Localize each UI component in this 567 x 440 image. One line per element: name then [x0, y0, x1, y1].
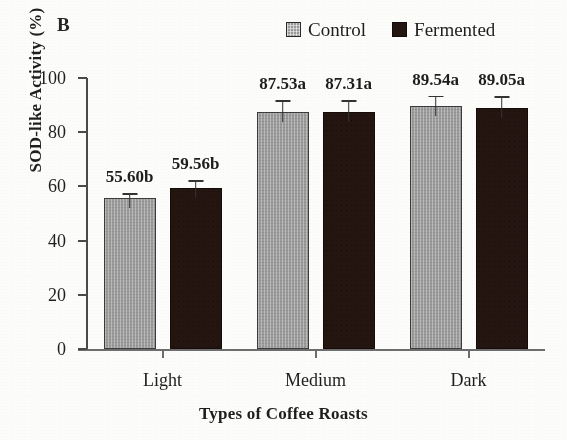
y-axis-line	[86, 78, 88, 350]
y-tick-label-0: 0	[57, 339, 66, 360]
y-tick-label-80: 80	[48, 122, 66, 143]
y-tick-label-60: 60	[48, 176, 66, 197]
figure-panel-b: B Control Fermented SOD-like Activity (%…	[0, 0, 567, 440]
error-bar-light-fermented	[195, 180, 197, 198]
x-category-label-light: Light	[143, 370, 182, 391]
error-bar-cap-light-fermented	[188, 180, 203, 182]
error-bar-cap-dark-fermented	[494, 96, 509, 98]
error-bar-medium-fermented	[348, 100, 350, 122]
error-bar-cap-medium-fermented	[341, 100, 356, 102]
bar-medium-fermented[interactable]	[323, 112, 375, 349]
x-category-label-medium: Medium	[285, 370, 346, 391]
y-tick-label-100: 100	[39, 68, 66, 89]
error-bar-light-control	[129, 193, 131, 208]
y-tick-60: 60	[78, 185, 87, 187]
value-label-medium-fermented: 87.31a	[325, 74, 372, 94]
value-label-dark-fermented: 89.05a	[478, 70, 525, 90]
error-bar-dark-fermented	[501, 96, 503, 117]
y-tick-100: 100	[78, 77, 87, 79]
legend-swatch-control-icon	[286, 22, 301, 37]
panel-label: B	[57, 14, 70, 36]
legend-label-fermented: Fermented	[414, 20, 495, 39]
bar-light-control[interactable]	[104, 198, 156, 349]
legend-swatch-fermented-icon	[392, 22, 407, 37]
bar-dark-control[interactable]	[410, 106, 462, 349]
bar-medium-control[interactable]	[257, 112, 309, 349]
x-category-label-dark: Dark	[451, 370, 487, 391]
chart-legend: Control Fermented	[286, 20, 495, 39]
bar-dark-fermented[interactable]	[476, 108, 528, 349]
legend-item-fermented: Fermented	[392, 20, 495, 39]
value-label-medium-control: 87.53a	[259, 74, 306, 94]
legend-item-control: Control	[286, 20, 366, 39]
value-label-light-control: 55.60b	[106, 167, 154, 187]
legend-label-control: Control	[308, 20, 366, 39]
x-tick-dark	[468, 349, 470, 358]
error-bar-medium-control	[282, 100, 284, 121]
y-tick-20: 20	[78, 294, 87, 296]
y-axis-title: SOD-like Activity (%)	[26, 0, 46, 230]
x-tick-medium	[315, 349, 317, 358]
y-tick-40: 40	[78, 240, 87, 242]
error-bar-cap-dark-control	[428, 96, 443, 98]
x-axis-title: Types of Coffee Roasts	[0, 404, 567, 424]
error-bar-dark-control	[435, 96, 437, 117]
y-tick-0: 0	[78, 348, 87, 350]
value-label-light-fermented: 59.56b	[172, 154, 220, 174]
plot-area: 020406080100 LightMediumDark 55.60b59.56…	[86, 78, 545, 349]
bar-light-fermented[interactable]	[170, 188, 222, 349]
y-tick-label-40: 40	[48, 230, 66, 251]
y-tick-label-20: 20	[48, 284, 66, 305]
error-bar-cap-light-control	[122, 193, 137, 195]
y-tick-80: 80	[78, 131, 87, 133]
value-label-dark-control: 89.54a	[412, 70, 459, 90]
x-axis-line	[78, 349, 545, 351]
error-bar-cap-medium-control	[275, 100, 290, 102]
x-tick-light	[162, 349, 164, 358]
